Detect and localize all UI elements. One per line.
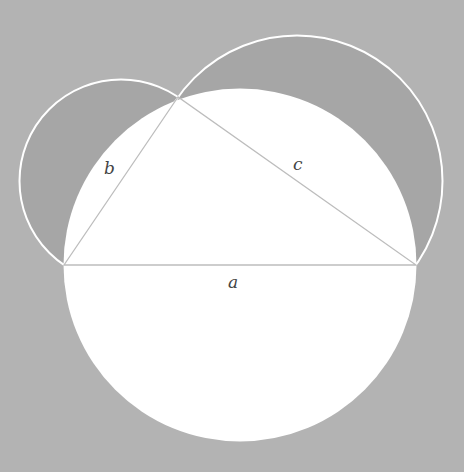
label-a: a (228, 272, 238, 292)
diagram-canvas: b c a (0, 0, 464, 472)
label-c: c (293, 154, 303, 174)
label-b: b (104, 158, 115, 178)
